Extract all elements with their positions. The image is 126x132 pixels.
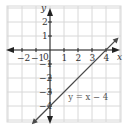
y-tick-label: 2 [42, 17, 48, 27]
y-axis-label: y [40, 3, 47, 13]
equation-label: y = x − 4 [67, 92, 108, 102]
y-tick-label: 1 [42, 31, 48, 41]
y-axis-up-arrow-icon [47, 8, 53, 16]
x-tick-label: 1 [62, 53, 68, 63]
x-tick-label: −2 [17, 53, 30, 63]
x-tick-label: 2 [76, 53, 82, 63]
grid-lines [7, 6, 121, 122]
x-axis-label: x [117, 52, 122, 62]
x-tick-label: 4 [104, 53, 110, 63]
y-tick-label: −3 [39, 87, 53, 97]
origin-label: 0 [43, 52, 49, 62]
coordinate-plane: −2−1123421−1−2−3−4 x y 0 y = x − 4 [0, 0, 126, 132]
axes [6, 8, 120, 124]
y-tick-label: −2 [39, 73, 52, 83]
